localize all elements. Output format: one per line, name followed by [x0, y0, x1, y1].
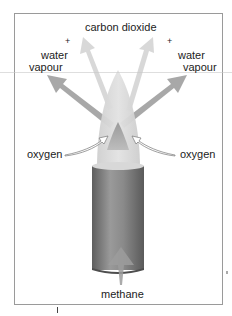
water-vapour-right-line1: water [178, 49, 205, 61]
oxygen-right-label: oxygen [180, 148, 215, 160]
water-vapour-left-line1: water [41, 49, 68, 61]
page-mark [57, 307, 58, 313]
oxygen-left-label: oxygen [27, 148, 62, 160]
water-vapour-left-line2: vapour [29, 61, 63, 73]
water-vapour-right-line2: vapour [183, 61, 217, 73]
methane-label: methane [101, 288, 144, 300]
scan-speck [226, 271, 228, 274]
plus-left-label: + [65, 36, 70, 46]
carbon-dioxide-label: carbon dioxide [85, 21, 157, 33]
plus-right-label: + [167, 36, 172, 46]
